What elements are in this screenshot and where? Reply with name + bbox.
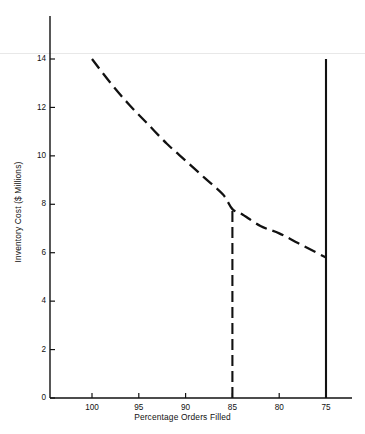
y-tick-label: 14	[37, 54, 47, 63]
y-tick-label: 6	[41, 248, 46, 257]
tick-labels: 024681012141009590858075	[37, 54, 331, 411]
series-line	[92, 59, 326, 258]
annotations	[232, 59, 326, 398]
tick-marks	[50, 59, 326, 398]
data-series	[92, 59, 326, 258]
axes	[50, 16, 352, 398]
y-tick-label: 2	[41, 345, 46, 354]
x-tick-label: 80	[275, 403, 285, 412]
y-tick-label: 4	[41, 296, 46, 305]
chart-figure: 024681012141009590858075 Percentage Orde…	[0, 0, 365, 434]
y-tick-label: 8	[41, 199, 46, 208]
x-tick-label: 100	[85, 403, 99, 412]
x-tick-label: 85	[228, 403, 238, 412]
y-tick-label: 12	[37, 103, 47, 112]
x-tick-label: 95	[134, 403, 144, 412]
y-tick-label: 0	[41, 393, 46, 402]
y-axis-title: Inventory Cost ($ Millions)	[13, 132, 23, 292]
x-tick-label: 90	[181, 403, 191, 412]
y-tick-label: 10	[37, 151, 47, 160]
x-tick-label: 75	[321, 403, 331, 412]
plot-area: 024681012141009590858075	[0, 0, 365, 434]
x-axis-title: Percentage Orders Filled	[0, 412, 365, 422]
